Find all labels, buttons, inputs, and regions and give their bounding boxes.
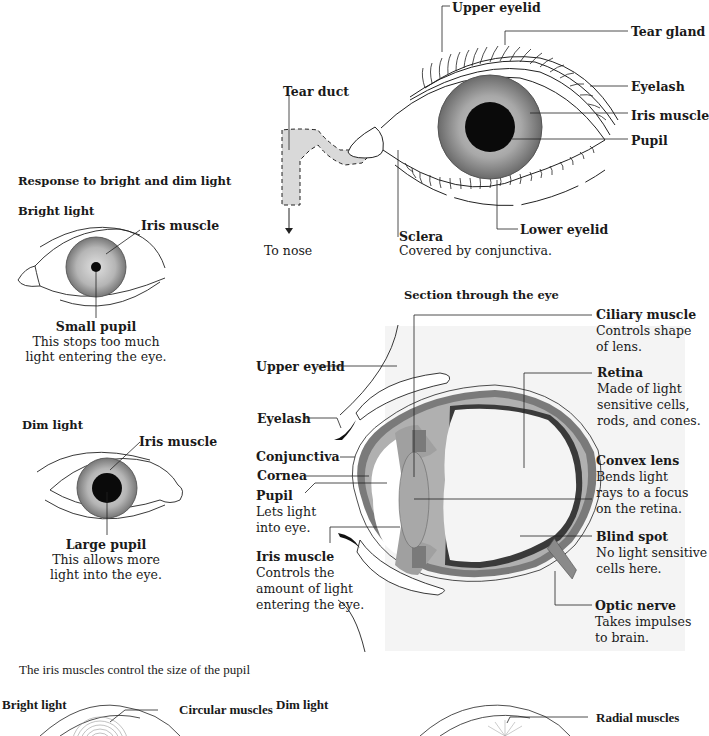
bottom-dim-light-title: Dim light	[276, 697, 328, 712]
section-ciliary-desc1: Controls shape	[596, 323, 691, 338]
label-lower-eyelid: Lower eyelid	[520, 222, 608, 237]
response-heading: Response to bright and dim light	[18, 174, 231, 188]
section-iris-desc3: entering the eye.	[256, 597, 364, 612]
section-pupil-desc2: into eye.	[256, 520, 310, 535]
section-optic-desc1: Takes impulses	[595, 614, 691, 629]
section-label-blind-spot: Blind spot	[596, 529, 668, 544]
section-blind-desc2: cells here.	[596, 561, 662, 576]
section-blind-desc1: No light sensitive	[596, 545, 707, 560]
large-pupil-label: Large pupil	[46, 537, 166, 552]
section-iris-desc2: amount of light	[256, 581, 353, 596]
section-lens-desc1: Bends light	[596, 469, 668, 484]
section-label-pupil: Pupil	[256, 488, 293, 503]
dim-desc-line1: This allows more	[26, 552, 186, 567]
section-heading: Section through the eye	[404, 288, 559, 302]
section-label-retina: Retina	[597, 365, 643, 380]
label-pupil: Pupil	[631, 133, 668, 148]
iris-muscles-caption: The iris muscles control the size of the…	[19, 662, 250, 677]
label-upper-eyelid: Upper eyelid	[452, 0, 541, 15]
section-lens-desc3: on the retina.	[596, 501, 682, 516]
pupil-icon	[465, 102, 515, 152]
label-sclera-desc: Covered by conjunctiva.	[399, 243, 552, 258]
section-label-upper-eyelid: Upper eyelid	[256, 359, 345, 374]
section-retina-desc3: rods, and cones.	[597, 413, 701, 428]
circular-muscles-label: Circular muscles	[179, 702, 273, 717]
label-tear-duct: Tear duct	[283, 84, 349, 99]
dim-light-title: Dim light	[22, 418, 83, 432]
section-ciliary-desc2: of lens.	[596, 339, 642, 354]
bright-desc-line2: light entering the eye.	[16, 349, 176, 364]
dim-desc-line2: light into the eye.	[26, 567, 186, 582]
bottom-bright-light-title: Bright light	[2, 697, 67, 712]
section-retina-desc1: Made of light	[597, 381, 682, 396]
section-label-lens: Convex lens	[596, 453, 679, 468]
section-label-conjunctiva: Conjunctiva	[256, 449, 340, 464]
label-eyelash: Eyelash	[631, 79, 685, 94]
section-lens-desc2: rays to a focus	[596, 485, 688, 500]
label-sclera: Sclera	[399, 229, 443, 244]
radial-muscles-label: Radial muscles	[596, 710, 679, 725]
section-label-eyelash: Eyelash	[257, 411, 311, 426]
section-label-iris-muscle: Iris muscle	[256, 549, 334, 564]
section-label-optic-nerve: Optic nerve	[595, 598, 676, 613]
bright-light-eye	[18, 227, 165, 318]
dim-iris-label: Iris muscle	[139, 434, 217, 449]
label-tear-gland: Tear gland	[631, 24, 705, 39]
section-optic-desc2: to brain.	[595, 630, 649, 645]
section-pupil-desc1: Lets light	[256, 504, 316, 519]
section-label-ciliary: Ciliary muscle	[596, 307, 696, 322]
label-to-nose: To nose	[264, 243, 312, 258]
section-iris-desc1: Controls the	[256, 565, 335, 580]
bright-light-title: Bright light	[18, 204, 94, 218]
section-retina-desc2: sensitive cells,	[597, 397, 690, 412]
dim-light-eye	[37, 442, 183, 535]
small-pupil-label: Small pupil	[36, 319, 156, 334]
section-label-cornea: Cornea	[257, 468, 307, 483]
bright-desc-line1: This stops too much	[16, 334, 176, 349]
label-iris-muscle: Iris muscle	[631, 108, 709, 123]
external-eye	[282, 6, 628, 237]
bright-iris-label: Iris muscle	[141, 218, 219, 233]
